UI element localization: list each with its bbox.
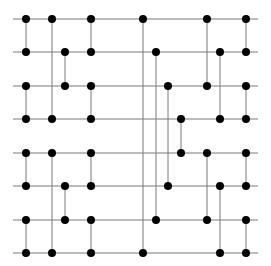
- comparator-node: [87, 48, 95, 56]
- comparator-node: [48, 115, 56, 123]
- comparators: [22, 15, 250, 257]
- comparator: [87, 82, 95, 123]
- comparator: [48, 149, 56, 257]
- comparator-node: [22, 149, 30, 157]
- comparator-node: [203, 149, 211, 157]
- comparator-node: [152, 48, 160, 56]
- comparator-node: [87, 149, 95, 157]
- comparator: [242, 82, 250, 123]
- comparator-node: [22, 48, 30, 56]
- comparator-node: [242, 249, 250, 257]
- comparator: [177, 115, 185, 157]
- comparator-node: [22, 182, 30, 190]
- comparator-node: [61, 182, 69, 190]
- comparator-node: [242, 82, 250, 90]
- comparator-node: [152, 216, 160, 224]
- comparator-node: [177, 149, 185, 157]
- comparator-node: [87, 115, 95, 123]
- comparator-node: [22, 249, 30, 257]
- comparator-node: [87, 249, 95, 257]
- comparator-node: [203, 82, 211, 90]
- comparator: [87, 216, 95, 257]
- comparator: [22, 82, 30, 123]
- comparator-node: [242, 216, 250, 224]
- sorting-network-diagram: [0, 0, 271, 266]
- comparator: [242, 149, 250, 190]
- comparator-node: [242, 149, 250, 157]
- comparator: [87, 15, 95, 56]
- comparator: [22, 216, 30, 257]
- comparator: [242, 15, 250, 56]
- comparator-node: [22, 115, 30, 123]
- comparator-node: [87, 82, 95, 90]
- comparator-node: [242, 115, 250, 123]
- comparator-node: [87, 182, 95, 190]
- comparator-node: [87, 15, 95, 23]
- comparator-node: [61, 82, 69, 90]
- comparator-node: [61, 48, 69, 56]
- comparator: [139, 15, 147, 257]
- comparator-node: [48, 149, 56, 157]
- comparator-node: [48, 249, 56, 257]
- comparator-node: [203, 15, 211, 23]
- comparator-node: [177, 115, 185, 123]
- comparator-node: [48, 15, 56, 23]
- comparator-node: [203, 216, 211, 224]
- comparator-node: [216, 182, 224, 190]
- comparator-node: [22, 216, 30, 224]
- comparator-node: [216, 115, 224, 123]
- comparator: [242, 216, 250, 257]
- comparator: [22, 149, 30, 190]
- comparator: [61, 48, 69, 90]
- comparator-node: [22, 82, 30, 90]
- comparator: [164, 82, 172, 190]
- comparator: [87, 149, 95, 190]
- comparator-node: [164, 182, 172, 190]
- comparator-node: [61, 216, 69, 224]
- comparator-node: [242, 48, 250, 56]
- comparator-node: [139, 15, 147, 23]
- comparator: [152, 48, 160, 224]
- comparator-node: [22, 15, 30, 23]
- comparator: [48, 15, 56, 123]
- comparator-node: [139, 249, 147, 257]
- comparator-node: [242, 182, 250, 190]
- comparator-node: [242, 15, 250, 23]
- comparator-node: [164, 82, 172, 90]
- comparator: [61, 182, 69, 224]
- comparator-node: [87, 216, 95, 224]
- comparator-node: [216, 249, 224, 257]
- comparator-node: [216, 48, 224, 56]
- comparator: [22, 15, 30, 56]
